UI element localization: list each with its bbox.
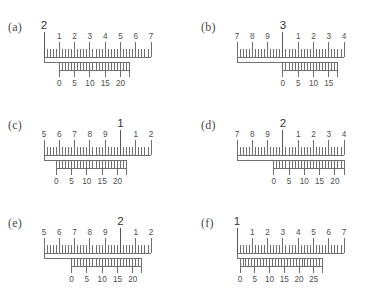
vernier-scale-label: 0 bbox=[271, 177, 276, 186]
main-scale: 21234567 bbox=[41, 19, 154, 57]
vernier-scale-label: 10 bbox=[98, 275, 108, 284]
main-scale-label: 1 bbox=[134, 228, 139, 237]
main-scale-label: 8 bbox=[88, 130, 93, 139]
caliper-drawing: 5678921205101520 bbox=[0, 196, 193, 294]
main-scale-label: 6 bbox=[57, 130, 62, 139]
vernier-scale: 0510152025 bbox=[238, 258, 323, 284]
main-scale: 56789112 bbox=[42, 117, 154, 155]
main-scale-label: 1 bbox=[57, 32, 62, 41]
main-scale-label: 2 bbox=[72, 32, 77, 41]
caliper-drawing: 2123456705101520 bbox=[0, 0, 193, 98]
vernier-scale: 05101520 bbox=[271, 160, 344, 186]
vernier-scale: 051015 bbox=[281, 62, 338, 88]
vernier-scale-label: 10 bbox=[82, 177, 92, 186]
vernier-scale-label: 20 bbox=[116, 79, 126, 88]
main-scale-label: 2 bbox=[149, 228, 154, 237]
caliper-drawing: 78931234051015 bbox=[193, 0, 386, 98]
vernier-scale-label: 10 bbox=[309, 79, 319, 88]
vernier-scale-label: 15 bbox=[98, 177, 108, 186]
main-scale-label: 1 bbox=[250, 228, 255, 237]
main-scale-label: 3 bbox=[327, 130, 332, 139]
main-scale: 78931234 bbox=[235, 19, 347, 57]
vernier-scale: 05101520 bbox=[69, 258, 142, 284]
main-scale-label: 7 bbox=[72, 228, 77, 237]
main-scale-label: 7 bbox=[72, 130, 77, 139]
caliper-drawing: 112345670510152025 bbox=[193, 196, 386, 294]
vernier-scale-label: 15 bbox=[113, 275, 123, 284]
vernier-scale-label: 5 bbox=[72, 79, 77, 88]
main-scale-label: 5 bbox=[311, 228, 316, 237]
caliper-drawing: 5678911205101520 bbox=[0, 98, 193, 196]
main-scale-cm-label: 2 bbox=[280, 117, 286, 129]
main-scale-cm-label: 2 bbox=[117, 215, 123, 227]
vernier-scale-label: 15 bbox=[101, 79, 111, 88]
main-scale-label: 9 bbox=[103, 228, 108, 237]
vernier-scale-label: 0 bbox=[57, 79, 62, 88]
vernier-scale-label: 15 bbox=[280, 275, 290, 284]
main-scale-label: 6 bbox=[327, 228, 332, 237]
main-scale: 56789212 bbox=[42, 215, 154, 253]
vernier-scale-label: 20 bbox=[330, 177, 340, 186]
vernier-scale-label: 15 bbox=[315, 177, 325, 186]
vernier-scale-label: 10 bbox=[85, 79, 95, 88]
main-scale-cm-label: 2 bbox=[41, 19, 47, 31]
main-scale-label: 7 bbox=[149, 32, 154, 41]
main-scale-label: 7 bbox=[235, 32, 240, 41]
vernier-scale-label: 0 bbox=[238, 275, 243, 284]
main-scale: 78921234 bbox=[235, 117, 347, 155]
vernier-scale-label: 0 bbox=[281, 79, 286, 88]
main-scale-label: 8 bbox=[250, 130, 255, 139]
vernier-scale: 05101520 bbox=[57, 62, 130, 88]
vernier-scale-label: 5 bbox=[296, 79, 301, 88]
vernier-panel-f: (f)112345670510152025 bbox=[193, 196, 386, 294]
vernier-scale-label: 25 bbox=[309, 275, 319, 284]
main-scale-label: 9 bbox=[265, 32, 270, 41]
vernier-scale-label: 10 bbox=[265, 275, 275, 284]
vernier-panel-e: (e)5678921205101520 bbox=[0, 196, 193, 294]
vernier-scale-label: 20 bbox=[113, 177, 123, 186]
main-scale-label: 1 bbox=[134, 130, 139, 139]
main-scale-label: 2 bbox=[265, 228, 270, 237]
vernier-panel-c: (c)5678911205101520 bbox=[0, 98, 193, 196]
main-scale-label: 5 bbox=[42, 228, 47, 237]
main-scale-label: 3 bbox=[88, 32, 93, 41]
main-scale-label: 9 bbox=[103, 130, 108, 139]
main-scale-label: 8 bbox=[250, 32, 255, 41]
main-scale-label: 4 bbox=[342, 130, 347, 139]
vernier-scale-label: 15 bbox=[324, 79, 334, 88]
main-scale-label: 6 bbox=[57, 228, 62, 237]
main-scale-label: 1 bbox=[296, 32, 301, 41]
main-scale-label: 7 bbox=[342, 228, 347, 237]
vernier-panel-b: (b)78931234051015 bbox=[193, 0, 386, 98]
vernier-scale-label: 0 bbox=[54, 177, 59, 186]
vernier-scale-label: 20 bbox=[295, 275, 305, 284]
main-scale-label: 2 bbox=[311, 130, 316, 139]
vernier-scale-label: 5 bbox=[69, 177, 74, 186]
vernier-scale-label: 5 bbox=[85, 275, 90, 284]
vernier-scale-label: 20 bbox=[128, 275, 138, 284]
caliper-drawing: 7892123405101520 bbox=[193, 98, 386, 196]
vernier-figure-grid: (a)2123456705101520(b)78931234051015(c)5… bbox=[0, 0, 386, 294]
main-scale-label: 4 bbox=[296, 228, 301, 237]
main-scale-label: 1 bbox=[296, 130, 301, 139]
vernier-panel-d: (d)7892123405101520 bbox=[193, 98, 386, 196]
vernier-scale-label: 0 bbox=[69, 275, 74, 284]
main-scale-label: 5 bbox=[118, 32, 123, 41]
main-scale-label: 4 bbox=[342, 32, 347, 41]
main-scale-cm-label: 3 bbox=[280, 19, 286, 31]
vernier-scale-label: 5 bbox=[253, 275, 258, 284]
main-scale-label: 2 bbox=[311, 32, 316, 41]
vernier-scale: 05101520 bbox=[54, 160, 127, 186]
vernier-scale-label: 10 bbox=[300, 177, 310, 186]
main-scale-label: 3 bbox=[281, 228, 286, 237]
main-scale-label: 3 bbox=[327, 32, 332, 41]
main-scale-cm-label: 1 bbox=[117, 117, 123, 129]
main-scale-label: 7 bbox=[235, 130, 240, 139]
vernier-panel-a: (a)2123456705101520 bbox=[0, 0, 193, 98]
main-scale-label: 8 bbox=[88, 228, 93, 237]
main-scale-label: 4 bbox=[103, 32, 108, 41]
main-scale-label: 2 bbox=[149, 130, 154, 139]
main-scale-label: 6 bbox=[134, 32, 139, 41]
main-scale-label: 9 bbox=[265, 130, 270, 139]
main-scale-cm-label: 1 bbox=[234, 215, 240, 227]
